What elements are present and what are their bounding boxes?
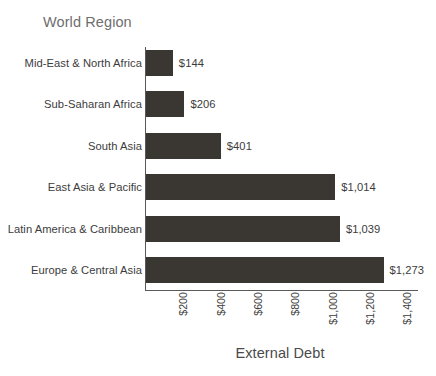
bar-value-label: $1,014 bbox=[341, 181, 376, 193]
x-axis-title-text: External Debt bbox=[235, 345, 324, 361]
bar[interactable] bbox=[146, 50, 173, 76]
category-label: Europe & Central Asia bbox=[31, 264, 142, 276]
category-label: Sub-Saharan Africa bbox=[44, 98, 142, 110]
bar-row: Europe & Central Asia$1,273 bbox=[0, 257, 436, 283]
bar-row: Sub-Saharan Africa$206 bbox=[0, 91, 436, 117]
bar-value-label: $401 bbox=[227, 140, 252, 152]
bar-value-label: $144 bbox=[179, 57, 204, 69]
bar[interactable] bbox=[146, 133, 221, 159]
bar-value-label: $1,273 bbox=[390, 264, 425, 276]
bars-container: Mid-East & North Africa$144Sub-Saharan A… bbox=[0, 47, 436, 290]
category-label: Latin America & Caribbean bbox=[8, 223, 142, 235]
bar-chart: World Region Mid-East & North Africa$144… bbox=[0, 0, 436, 376]
x-tick-label-text: $1,400 bbox=[401, 292, 413, 325]
bar-row: Mid-East & North Africa$144 bbox=[0, 50, 436, 76]
bar[interactable] bbox=[146, 91, 184, 117]
category-label: East Asia & Pacific bbox=[48, 181, 142, 193]
bar-value-label: $1,039 bbox=[346, 223, 381, 235]
bar-row: South Asia$401 bbox=[0, 133, 436, 159]
x-tick-label-text: $200 bbox=[177, 292, 189, 316]
bar-value-label: $206 bbox=[190, 98, 215, 110]
bar[interactable] bbox=[146, 216, 340, 242]
x-tick-label-text: $1,200 bbox=[364, 292, 376, 325]
x-tick-label-text: $600 bbox=[252, 292, 264, 316]
category-label: South Asia bbox=[88, 140, 142, 152]
category-label: Mid-East & North Africa bbox=[25, 57, 142, 69]
x-axis-tick-labels: $200$400$600$800$1,000$1,200$1,400 bbox=[0, 292, 436, 338]
x-tick-label: $1,400 bbox=[384, 292, 430, 336]
x-tick-label-text: $400 bbox=[215, 292, 227, 316]
x-tick-label-text: $800 bbox=[289, 292, 301, 316]
x-axis-title: External Debt bbox=[0, 345, 436, 361]
bar[interactable] bbox=[146, 257, 384, 283]
bar[interactable] bbox=[146, 174, 335, 200]
bar-row: Latin America & Caribbean$1,039 bbox=[0, 216, 436, 242]
x-tick-label-text: $1,000 bbox=[327, 292, 339, 325]
bar-row: East Asia & Pacific$1,014 bbox=[0, 174, 436, 200]
y-axis-title: World Region bbox=[43, 14, 132, 30]
